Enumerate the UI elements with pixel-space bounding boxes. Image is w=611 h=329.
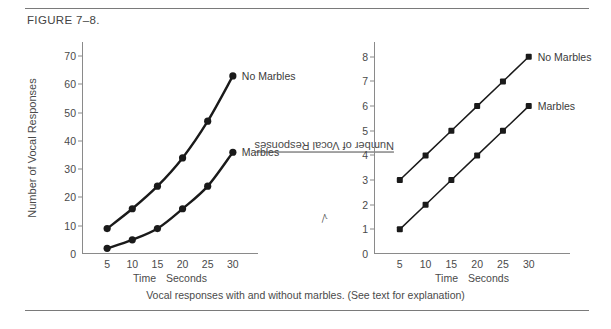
data-point-marker — [129, 236, 136, 243]
series-line — [107, 76, 233, 229]
data-point-marker — [526, 54, 532, 60]
figure-number-title: FIGURE 7–8. — [27, 14, 100, 26]
data-point-marker — [500, 128, 506, 134]
x-axis-label-left: TimeSeconds — [82, 272, 258, 284]
series-curves-right — [374, 42, 570, 254]
series-line — [400, 106, 529, 229]
plot-area-left: 010203040506070 51015202530 No MarblesMa… — [82, 42, 258, 254]
data-point-marker — [500, 78, 506, 84]
data-point-marker — [474, 152, 480, 158]
data-point-marker — [104, 245, 111, 252]
data-point-marker — [448, 128, 454, 134]
y-axis-label-left-text: Number of Vocal Responses — [26, 78, 38, 217]
top-rule — [25, 8, 589, 9]
x-tick-label: 15 — [446, 254, 458, 270]
series-curves-left — [82, 42, 258, 254]
chart-panel-right: √Number of Vocal Responses 012345678 510… — [300, 34, 580, 282]
data-point-marker — [397, 177, 403, 183]
data-point-marker — [423, 152, 429, 158]
data-point-marker — [179, 205, 186, 212]
x-tick-label: 10 — [126, 254, 138, 270]
radical-icon: √ — [321, 211, 327, 223]
y-tick-label: 0 — [362, 248, 374, 260]
x-tick-label: 10 — [420, 254, 432, 270]
data-point-marker — [474, 103, 480, 109]
series-line — [400, 57, 529, 180]
data-point-marker — [229, 149, 236, 156]
x-tick-label: 25 — [497, 254, 509, 270]
data-point-marker — [448, 177, 454, 183]
x-tick-label: 30 — [227, 254, 239, 270]
data-point-marker — [104, 225, 111, 232]
series-label: No Marbles — [538, 51, 592, 63]
y-tick-label: 0 — [70, 248, 82, 260]
x-axis-label-right-time: Time — [435, 272, 458, 284]
figure-container: FIGURE 7–8. Number of Vocal Responses 01… — [0, 0, 611, 329]
y-axis-label-right: √Number of Vocal Responses — [316, 42, 332, 254]
x-axis-label-right-seconds: Seconds — [468, 272, 509, 284]
x-tick-label: 5 — [104, 254, 110, 270]
data-point-marker — [179, 154, 186, 161]
x-tick-label: 20 — [177, 254, 189, 270]
data-point-marker — [229, 72, 236, 79]
data-point-marker — [526, 103, 532, 109]
data-point-marker — [129, 205, 136, 212]
x-tick-label: 30 — [523, 254, 535, 270]
plot-area-right: 012345678 51015202530 No MarblesMarbles — [374, 42, 550, 254]
x-axis-label-right: TimeSeconds — [374, 272, 570, 284]
series-line — [107, 152, 233, 248]
series-label: Marbles — [538, 100, 575, 112]
x-tick-label: 5 — [397, 254, 403, 270]
data-point-marker — [204, 183, 211, 190]
figure-caption: Vocal responses with and without marbles… — [0, 289, 611, 301]
bottom-rule — [25, 310, 589, 311]
series-label: No Marbles — [242, 70, 296, 82]
x-tick-label: 20 — [471, 254, 483, 270]
data-point-marker — [154, 225, 161, 232]
y-axis-label-left: Number of Vocal Responses — [24, 42, 40, 254]
x-tick-label: 25 — [202, 254, 214, 270]
data-point-marker — [154, 183, 161, 190]
data-point-marker — [397, 226, 403, 232]
x-axis-label-left-seconds: Seconds — [166, 272, 207, 284]
chart-panel-left: Number of Vocal Responses 01020304050607… — [8, 34, 288, 282]
x-axis-label-left-time: Time — [133, 272, 156, 284]
data-point-marker — [423, 202, 429, 208]
data-point-marker — [204, 118, 211, 125]
x-tick-label: 15 — [152, 254, 164, 270]
